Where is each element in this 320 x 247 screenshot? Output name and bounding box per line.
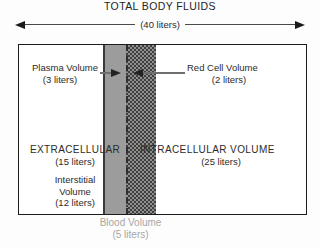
red-cell-label-text: Red Cell Volume [187,62,271,74]
blood-volume-label-text: Blood Volume [58,217,203,229]
arrow-line-right [185,24,295,26]
total-volume-label: (40 liters) [135,19,185,30]
interstitial-label: Interstitial Volume (12 liters) [19,174,131,209]
fluid-compartment-box: Plasma Volume (3 liters) Red Cell Volume… [18,44,307,215]
plasma-label: Plasma Volume (3 liters) [22,62,98,85]
red-cell-leader-line [143,72,185,74]
extracellular-volume-text: (15 liters) [19,156,131,168]
plasma-leader-arrowhead-icon [111,69,121,77]
arrow-line-left [25,24,135,26]
interstitial-label-line1: Interstitial [19,174,131,186]
interstitial-volume-text: (12 liters) [19,197,131,209]
diagram-title: TOTAL BODY FLUIDS [0,0,320,12]
plasma-label-text: Plasma Volume [22,62,98,74]
interstitial-label-line2: Volume [19,186,131,198]
arrowhead-left-icon [15,21,25,29]
intracellular-label: INTRACELLULAR VOLUME (25 liters) [140,144,302,167]
red-cell-label: Red Cell Volume (2 liters) [187,62,271,85]
body-fluids-diagram: TOTAL BODY FLUIDS (40 liters) Plasma Vol… [0,0,320,247]
extracellular-label: EXTRACELLULAR (15 liters) [19,144,131,167]
blood-volume-label: Blood Volume (5 liters) [58,217,203,241]
plasma-volume-text: (3 liters) [22,74,98,86]
intracellular-label-text: INTRACELLULAR VOLUME [140,144,302,156]
total-span-arrow: (40 liters) [15,18,305,31]
red-cell-volume-text: (2 liters) [187,74,271,86]
arrowhead-right-icon [295,21,305,29]
extracellular-label-text: EXTRACELLULAR [19,144,131,156]
blood-volume-text: (5 liters) [58,229,203,241]
red-cell-leader-arrowhead-icon [133,69,143,77]
intracellular-volume-text: (25 liters) [140,156,302,168]
